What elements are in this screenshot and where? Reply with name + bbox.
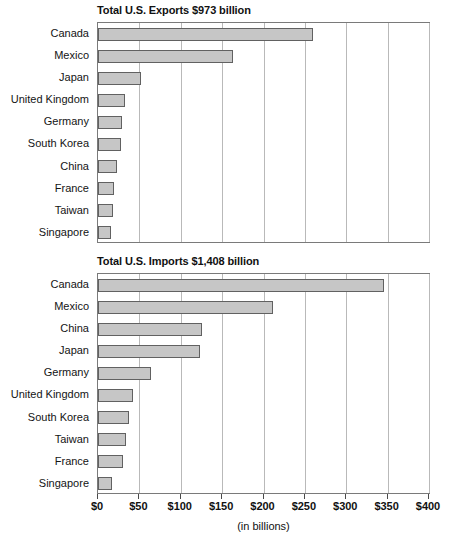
exports-category-label: Taiwan (0, 199, 93, 221)
x-axis-tick-label: $400 (416, 500, 440, 512)
bar (98, 367, 151, 380)
bar-row (98, 222, 429, 244)
x-axis-tick-label: $300 (333, 500, 357, 512)
x-axis-tick-label: $50 (129, 500, 147, 512)
bar (98, 50, 233, 63)
bar (98, 94, 125, 107)
bar-row (98, 407, 429, 429)
imports-bars (98, 274, 429, 493)
bar-row (98, 45, 429, 67)
bar-row (98, 89, 429, 111)
bar (98, 455, 123, 468)
imports-category-label: China (0, 317, 93, 339)
imports-plot-area (97, 273, 430, 494)
bar-row (98, 429, 429, 451)
bar-row (98, 133, 429, 155)
bar (98, 116, 122, 129)
bar (98, 226, 111, 239)
exports-category-label: Singapore (0, 221, 93, 243)
x-axis-tick-label: $150 (209, 500, 233, 512)
bar (98, 323, 202, 336)
x-axis-tick (263, 494, 264, 499)
exports-category-label: United Kingdom (0, 88, 93, 110)
exports-category-label: Canada (0, 22, 93, 44)
exports-category-labels: Canada Mexico Japan United Kingdom Germa… (0, 22, 93, 243)
imports-category-label: South Korea (0, 406, 93, 428)
bar-row (98, 473, 429, 495)
bar-row (98, 296, 429, 318)
x-axis-tick (97, 494, 98, 499)
x-axis-tick (304, 494, 305, 499)
x-axis-tick (180, 494, 181, 499)
bar-row (98, 318, 429, 340)
x-axis-tick (345, 494, 346, 499)
x-axis-tick-label: $0 (91, 500, 103, 512)
x-axis-tick-label: $250 (292, 500, 316, 512)
bar (98, 477, 112, 490)
bar (98, 204, 113, 217)
imports-category-label: Singapore (0, 472, 93, 494)
gridline (429, 274, 430, 493)
imports-category-label: Canada (0, 273, 93, 295)
exports-imports-figure: Total U.S. Exports $973 billion Canada M… (0, 0, 453, 533)
bar-row (98, 451, 429, 473)
imports-category-label: Mexico (0, 295, 93, 317)
bar-row (98, 23, 429, 45)
exports-category-label: Germany (0, 110, 93, 132)
bar (98, 433, 126, 446)
bar (98, 160, 117, 173)
bar (98, 389, 133, 402)
x-axis-tick (221, 494, 222, 499)
bar (98, 345, 200, 358)
bar (98, 301, 273, 314)
exports-panel: Total U.S. Exports $973 billion Canada M… (0, 0, 453, 250)
bar-row (98, 362, 429, 384)
exports-category-label: Japan (0, 66, 93, 88)
imports-category-label: United Kingdom (0, 383, 93, 405)
bar (98, 411, 129, 424)
axis-caption: (in billions) (97, 520, 430, 532)
x-axis-tick-label: $200 (250, 500, 274, 512)
x-axis-tick-label: $100 (168, 500, 192, 512)
exports-plot-area (97, 22, 430, 243)
bar (98, 138, 121, 151)
imports-category-label: Japan (0, 339, 93, 361)
imports-category-label: Taiwan (0, 428, 93, 450)
imports-panel: Total U.S. Imports $1,408 billion Canada… (0, 251, 453, 533)
exports-bars (98, 23, 429, 242)
bar (98, 28, 313, 41)
exports-chart-title: Total U.S. Exports $973 billion (97, 4, 251, 16)
x-axis-tick (428, 494, 429, 499)
bar (98, 72, 141, 85)
bar-row (98, 67, 429, 89)
exports-category-label: China (0, 155, 93, 177)
bar (98, 182, 114, 195)
bar-row (98, 156, 429, 178)
bar (98, 279, 384, 292)
bar-row (98, 274, 429, 296)
imports-category-label: Germany (0, 361, 93, 383)
exports-category-label: South Korea (0, 132, 93, 154)
exports-category-label: Mexico (0, 44, 93, 66)
x-axis-tick (387, 494, 388, 499)
exports-category-label: France (0, 177, 93, 199)
gridline (429, 23, 430, 242)
imports-chart-title: Total U.S. Imports $1,408 billion (97, 255, 259, 267)
x-axis-tick (138, 494, 139, 499)
bar-row (98, 111, 429, 133)
x-axis-tick-label: $350 (374, 500, 398, 512)
bar-row (98, 200, 429, 222)
bar-row (98, 340, 429, 362)
bar-row (98, 178, 429, 200)
imports-category-label: France (0, 450, 93, 472)
imports-category-labels: Canada Mexico China Japan Germany United… (0, 273, 93, 494)
bar-row (98, 384, 429, 406)
